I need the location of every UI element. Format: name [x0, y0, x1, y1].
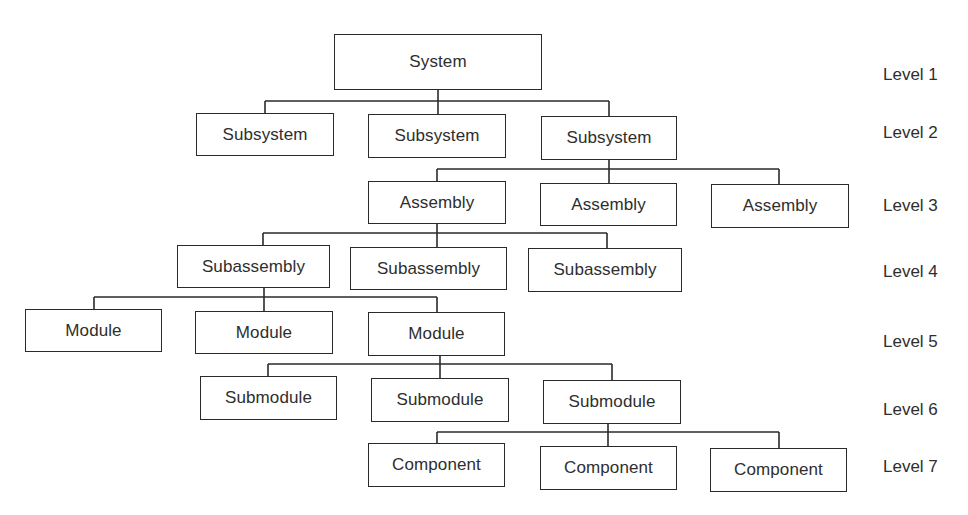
- node-subassembly-1: Subassembly: [177, 245, 330, 288]
- level-label-3: Level 3: [883, 196, 938, 216]
- node-subassembly-3: Subassembly: [528, 248, 682, 292]
- level-label-1: Level 1: [883, 65, 938, 85]
- level-label-7: Level 7: [883, 457, 938, 477]
- node-module-2: Module: [195, 311, 333, 354]
- node-system: System: [334, 34, 542, 90]
- node-subsystem-1: Subsystem: [196, 113, 334, 156]
- node-subsystem-2: Subsystem: [368, 114, 506, 158]
- level-label-4: Level 4: [883, 262, 938, 282]
- node-module-1: Module: [25, 309, 162, 352]
- node-submodule-2: Submodule: [371, 378, 509, 422]
- node-module-3: Module: [368, 312, 505, 356]
- level-label-5: Level 5: [883, 332, 938, 352]
- node-assembly-3: Assembly: [711, 184, 849, 228]
- node-subsystem-3: Subsystem: [541, 116, 677, 160]
- node-subassembly-2: Subassembly: [350, 247, 507, 290]
- node-submodule-1: Submodule: [200, 376, 337, 420]
- level-label-2: Level 2: [883, 123, 938, 143]
- node-component-2: Component: [540, 446, 677, 490]
- node-submodule-3: Submodule: [543, 380, 681, 424]
- node-component-1: Component: [368, 443, 505, 487]
- node-assembly-1: Assembly: [368, 181, 506, 224]
- level-label-6: Level 6: [883, 400, 938, 420]
- node-assembly-2: Assembly: [540, 183, 677, 226]
- node-component-3: Component: [710, 448, 847, 492]
- hierarchy-diagram: SystemSubsystemSubsystemSubsystemAssembl…: [0, 0, 968, 515]
